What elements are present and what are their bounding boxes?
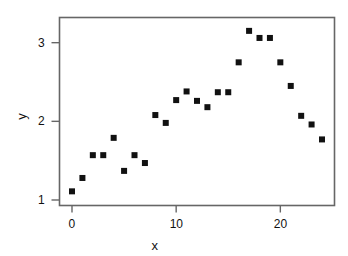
data-point-marker — [309, 121, 315, 127]
data-point-marker — [173, 97, 179, 103]
y-axis-title: y — [13, 113, 28, 120]
data-point-marker — [69, 188, 75, 194]
x-tick-label: 10 — [170, 217, 183, 231]
x-tick-label: 20 — [274, 217, 287, 231]
data-point-marker — [152, 112, 158, 118]
data-point-marker — [215, 89, 221, 95]
data-point-marker — [163, 120, 169, 126]
y-tick-label: 1 — [38, 193, 45, 207]
data-point-marker — [111, 135, 117, 141]
data-point-marker — [288, 83, 294, 89]
data-point-marker — [225, 89, 231, 95]
plot-frame — [60, 18, 335, 206]
x-axis-ticks — [72, 206, 280, 213]
data-point-marker — [184, 88, 190, 94]
data-point-marker — [298, 113, 304, 119]
x-axis-title: x — [152, 238, 159, 253]
data-point-marker — [79, 175, 85, 181]
data-point-marker — [100, 152, 106, 158]
data-point-marker — [90, 152, 96, 158]
data-point-marker — [236, 59, 242, 65]
data-point-marker — [121, 168, 127, 174]
data-point-marker — [277, 59, 283, 65]
scatter-plot-figure: 1 2 3 0 10 20 x y — [0, 0, 348, 256]
data-point-marker — [319, 136, 325, 142]
data-point-marker — [194, 98, 200, 104]
y-tick-label: 3 — [38, 36, 45, 50]
data-point-marker — [246, 28, 252, 34]
data-point-marker — [132, 152, 138, 158]
data-point-marker — [257, 35, 263, 41]
data-point-marker — [142, 160, 148, 166]
x-tick-label: 0 — [69, 217, 76, 231]
data-point-marker — [267, 35, 273, 41]
data-point-marker — [204, 104, 210, 110]
y-axis-ticks — [52, 43, 60, 200]
y-tick-label: 2 — [38, 114, 45, 128]
